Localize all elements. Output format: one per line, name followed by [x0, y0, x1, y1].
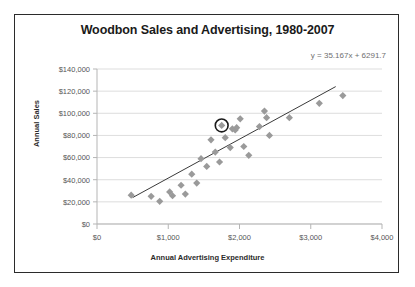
data-point-marker — [177, 182, 184, 189]
data-point-marker — [188, 171, 195, 178]
data-point-marker — [193, 179, 200, 186]
y-tick-label: $120,000 — [59, 87, 90, 96]
data-point-marker — [237, 115, 244, 122]
data-point-marker — [128, 192, 135, 199]
data-point-marker — [263, 114, 270, 121]
y-tick-label: $100,000 — [59, 109, 90, 118]
x-tick-label: $2,000 — [228, 233, 251, 242]
data-point-marker — [216, 158, 223, 165]
x-tick-label: $0 — [93, 233, 101, 242]
axis-ticks — [93, 69, 382, 229]
data-points — [128, 92, 347, 205]
y-tick-label: $60,000 — [63, 153, 90, 162]
data-point-marker — [316, 100, 323, 107]
x-tick-label: $4,000 — [371, 233, 394, 242]
y-tick-label: $40,000 — [63, 176, 90, 185]
x-axis-tick-labels: $0$1,000$2,000$3,000$4,000 — [93, 233, 394, 242]
y-tick-label: $140,000 — [59, 65, 90, 74]
data-point-marker — [148, 193, 155, 200]
data-point-marker — [240, 143, 247, 150]
x-tick-label: $3,000 — [299, 233, 322, 242]
data-point-marker — [156, 198, 163, 205]
scatter-plot: $0$20,000$40,000$60,000$80,000$100,000$1… — [15, 15, 400, 274]
y-tick-label: $0 — [82, 220, 90, 229]
data-point-marker — [339, 92, 346, 99]
x-tick-label: $1,000 — [157, 233, 180, 242]
data-point-marker — [266, 132, 273, 139]
trendline — [133, 87, 336, 198]
y-axis-tick-labels: $0$20,000$40,000$60,000$80,000$100,000$1… — [59, 65, 90, 229]
data-point-marker — [182, 191, 189, 198]
data-point-marker — [212, 148, 219, 155]
data-point-marker — [203, 163, 210, 170]
data-point-marker — [207, 136, 214, 143]
data-point-marker — [218, 122, 225, 129]
y-tick-label: $80,000 — [63, 131, 90, 140]
data-point-marker — [286, 114, 293, 121]
chart-container: Woodbon Sales and Advertising, 1980-2007… — [14, 14, 399, 273]
gridlines — [97, 69, 382, 224]
y-tick-label: $20,000 — [63, 198, 90, 207]
